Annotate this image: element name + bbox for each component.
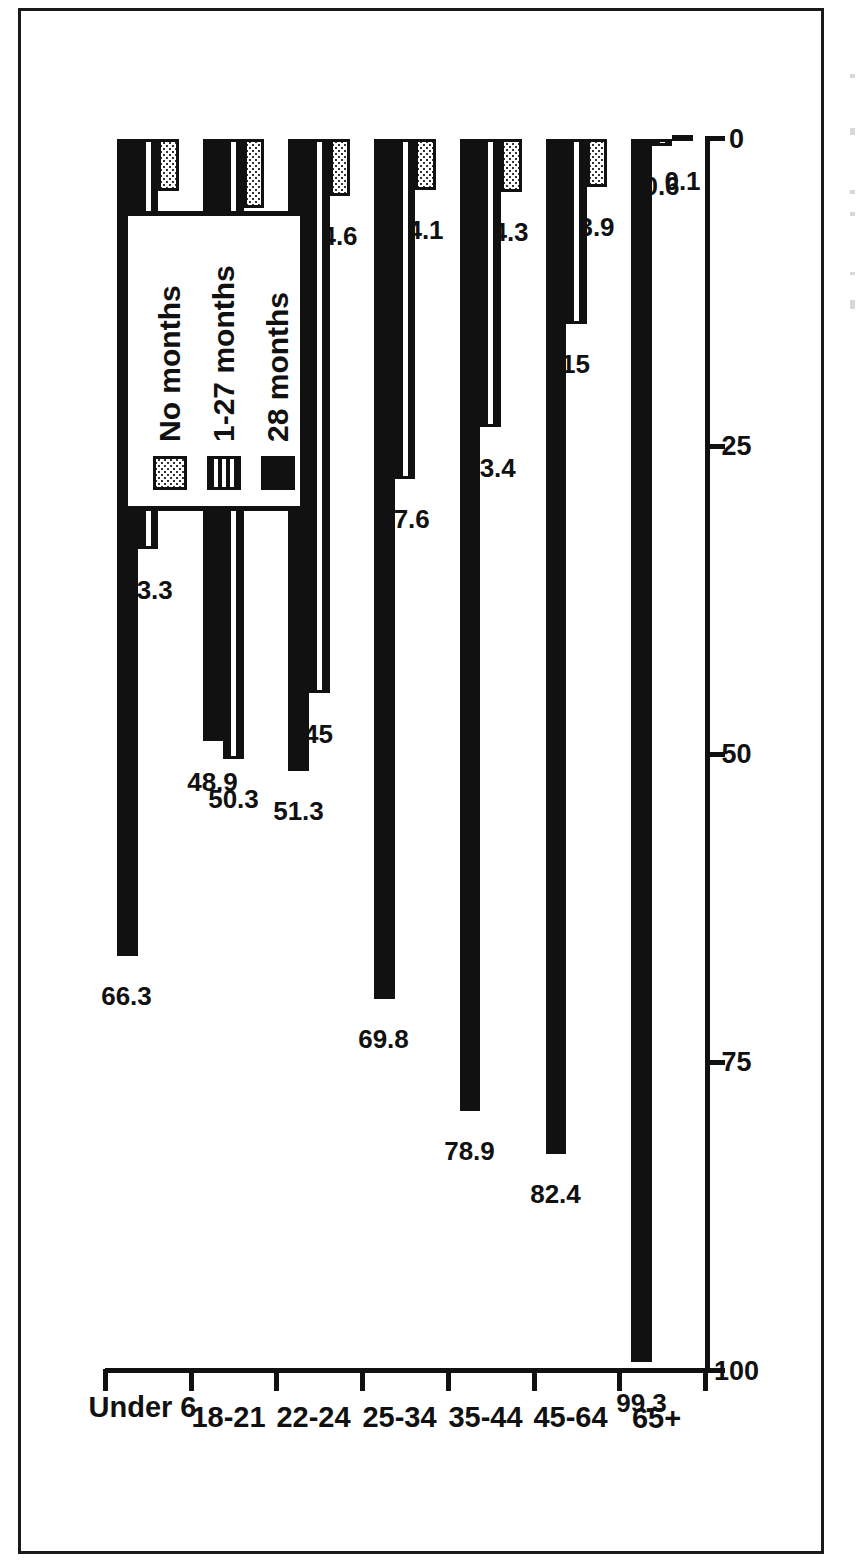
value-axis-tick-label: 25 xyxy=(721,402,752,492)
bar-1 xyxy=(652,139,673,146)
bar-value-label: 78.9 xyxy=(454,1115,485,1189)
bar-0 xyxy=(244,139,265,208)
bar-0 xyxy=(587,139,608,187)
chart-page: 0255075100 Under 618-2122-2425-3435-4445… xyxy=(0,0,863,1568)
bar-2 xyxy=(546,139,567,1154)
category-axis-tick xyxy=(703,1369,708,1391)
bar-1 xyxy=(480,139,501,427)
bar-1 xyxy=(566,139,587,324)
bar-2 xyxy=(631,139,652,1362)
bar-2 xyxy=(374,139,395,999)
value-axis-tick-label: 75 xyxy=(721,1018,752,1108)
bar-1 xyxy=(395,139,416,479)
chart-legend: No months1-27 months28 months xyxy=(123,211,305,511)
category-label: 35-44 xyxy=(469,1375,502,1461)
category-axis-tick xyxy=(189,1369,194,1391)
legend-swatch-icon xyxy=(153,456,187,490)
category-axis-tick xyxy=(360,1369,365,1391)
category-label: 45-64 xyxy=(554,1375,587,1461)
category-label: 22-24 xyxy=(297,1375,330,1461)
chart-stage: 0255075100 Under 618-2122-2425-3435-4445… xyxy=(71,71,771,1491)
bar-value-label: 51.3 xyxy=(283,775,314,849)
bar-0 xyxy=(501,139,522,192)
category-axis-tick xyxy=(532,1369,537,1391)
category-axis-tick xyxy=(446,1369,451,1391)
category-axis-tick xyxy=(274,1369,279,1391)
bar-value-label: 99.3 xyxy=(626,1366,657,1440)
legend-item: 1-27 months xyxy=(200,232,248,490)
category-label: Under 6 xyxy=(126,1375,159,1461)
bar-0 xyxy=(158,139,179,191)
bar-2 xyxy=(460,139,481,1111)
legend-item: No months xyxy=(146,232,194,490)
legend-label: 28 months xyxy=(261,292,295,442)
category-label: 18-21 xyxy=(212,1375,245,1461)
legend-label: 1-27 months xyxy=(207,265,241,442)
category-label: 25-34 xyxy=(383,1375,416,1461)
figure-frame: 0255075100 Under 618-2122-2425-3435-4445… xyxy=(18,8,824,1554)
bar-1 xyxy=(309,139,330,693)
bar-value-label: 66.3 xyxy=(111,960,142,1034)
legend-swatch-icon xyxy=(261,456,295,490)
value-axis-tick-label: 100 xyxy=(721,1326,752,1416)
value-axis-tick-label: 50 xyxy=(721,710,752,800)
bar-value-label: 69.8 xyxy=(368,1003,399,1077)
category-axis-tick xyxy=(103,1369,108,1391)
legend-item: 28 months xyxy=(254,232,302,490)
legend-label: No months xyxy=(153,285,187,442)
legend-swatch-icon xyxy=(207,456,241,490)
category-axis-line xyxy=(105,1368,705,1373)
bar-0 xyxy=(672,135,693,141)
bar-value-label: 48.9 xyxy=(197,745,228,819)
value-axis-tick-label: 0 xyxy=(721,94,752,184)
bar-0 xyxy=(330,139,351,196)
bar-value-label: 82.4 xyxy=(540,1158,571,1232)
bar-0 xyxy=(415,139,436,190)
